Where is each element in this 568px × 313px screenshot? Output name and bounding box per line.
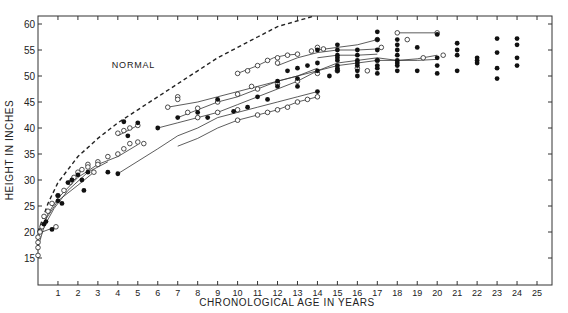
filled-point (335, 48, 340, 53)
y-tick-label: 45 (24, 97, 36, 108)
filled-point (515, 42, 520, 47)
filled-point (395, 53, 400, 58)
open-point (80, 167, 85, 172)
open-point (128, 141, 133, 146)
filled-point (50, 227, 55, 232)
x-tick-label: 7 (175, 288, 180, 298)
x-tick-label: 22 (472, 288, 482, 298)
open-point (92, 170, 97, 175)
open-point (96, 162, 101, 167)
filled-point (315, 68, 320, 73)
open-point (36, 240, 41, 245)
open-point (275, 56, 280, 61)
patient-line (38, 162, 108, 248)
filled-point (515, 36, 520, 41)
open-point (54, 225, 59, 230)
filled-point (455, 53, 460, 58)
open-point (315, 95, 320, 100)
filled-point (285, 68, 290, 73)
x-tick-label: 20 (432, 288, 442, 298)
patient-line (317, 54, 377, 58)
x-tick-label: 18 (392, 288, 402, 298)
open-point (42, 214, 47, 219)
open-point (235, 71, 240, 76)
filled-point (395, 42, 400, 47)
open-point (305, 97, 310, 102)
filled-point (275, 84, 280, 89)
filled-point (86, 170, 91, 175)
open-point (106, 154, 111, 159)
filled-point (295, 66, 300, 71)
x-tick-label: 19 (412, 288, 422, 298)
filled-point (315, 48, 320, 53)
open-point (62, 188, 67, 193)
x-tick-label: 6 (155, 288, 160, 298)
y-tick-label: 15 (24, 253, 36, 264)
filled-point (495, 36, 500, 41)
filled-point (305, 63, 310, 68)
open-point (36, 245, 41, 250)
filled-point (395, 61, 400, 66)
open-point (195, 106, 200, 111)
open-point (122, 147, 127, 152)
filled-point (375, 58, 380, 63)
filled-point (395, 48, 400, 53)
open-point (116, 152, 121, 157)
open-point (122, 128, 127, 133)
filled-point (245, 105, 250, 110)
x-tick-label: 3 (95, 288, 100, 298)
y-tick-label: 60 (24, 19, 36, 30)
filled-point (515, 63, 520, 68)
open-point (116, 131, 121, 136)
x-tick-label: 25 (532, 288, 542, 298)
growth-chart: 1234567891011121314151617181920212223242… (0, 0, 568, 313)
normal-label: NORMAL (112, 60, 155, 70)
open-point (136, 140, 141, 145)
filled-point (231, 109, 236, 114)
filled-point (295, 84, 300, 89)
y-tick-label: 40 (24, 123, 36, 134)
filled-point (315, 89, 320, 94)
open-point (265, 110, 270, 115)
data-points (36, 29, 520, 257)
open-point (128, 126, 133, 131)
open-point (50, 201, 55, 206)
open-point (36, 235, 41, 240)
x-tick-label: 5 (135, 288, 140, 298)
open-point (36, 253, 41, 258)
open-point (275, 108, 280, 113)
open-point (295, 100, 300, 105)
filled-point (395, 37, 400, 42)
filled-point (495, 50, 500, 55)
filled-point (115, 171, 120, 176)
filled-point (56, 193, 61, 198)
open-point (215, 110, 220, 115)
filled-point (435, 55, 440, 60)
filled-point (155, 126, 160, 131)
filled-point (335, 42, 340, 47)
x-axis-label: CHRONOLOGICAL AGE IN YEARS (199, 297, 375, 308)
open-point (46, 209, 51, 214)
x-tick-label: 24 (512, 288, 522, 298)
filled-point (475, 55, 480, 60)
filled-point (415, 45, 420, 50)
open-point (321, 47, 326, 52)
open-point (421, 56, 426, 61)
filled-point (355, 74, 360, 79)
y-tick-label: 20 (24, 227, 36, 238)
filled-point (195, 110, 200, 115)
open-point (285, 53, 290, 58)
filled-point (515, 55, 520, 60)
filled-point (435, 32, 440, 37)
filled-point (435, 71, 440, 76)
open-point (175, 97, 180, 102)
open-point (441, 53, 446, 58)
filled-point (275, 79, 280, 84)
open-point (235, 92, 240, 97)
y-tick-label: 35 (24, 149, 36, 160)
open-point (235, 118, 240, 123)
filled-point (56, 198, 61, 203)
y-tick-label: 55 (24, 45, 36, 56)
filled-point (125, 133, 130, 138)
filled-point (255, 94, 260, 99)
